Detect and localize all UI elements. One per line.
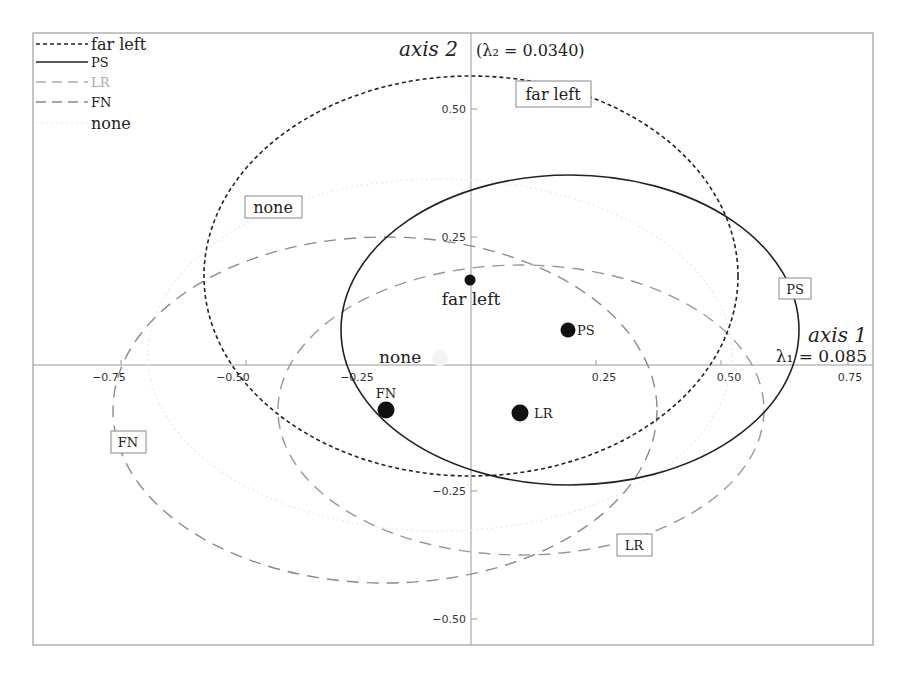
y-ticks — [471, 109, 477, 619]
x-tick-label: 0.75 — [838, 371, 863, 384]
point-ps — [561, 323, 576, 338]
ellipse-label-lr: LR — [617, 534, 652, 556]
ellipse-label-fn: FN — [111, 431, 146, 453]
ellipse-label-none: none — [245, 196, 302, 218]
axis1-title: axis 1 — [808, 323, 867, 347]
axis2-title: axis 2 — [399, 37, 458, 61]
legend-label-lr: LR — [91, 75, 111, 90]
point-lr — [512, 405, 529, 422]
svg-text:LR: LR — [625, 538, 645, 553]
svg-text:far left: far left — [525, 85, 581, 104]
point-label-none: none — [379, 347, 421, 367]
x-tick-label: −0.50 — [216, 371, 250, 384]
correspondence-plot: −0.75 −0.50 −0.25 0.25 0.50 0.75 0.50 0.… — [0, 0, 898, 674]
legend-label-far-left: far left — [91, 35, 147, 54]
x-tick-label: 0.25 — [592, 371, 617, 384]
axis1-eigenvalue: λ₁ = 0.085 — [776, 346, 867, 366]
point-label-far-left: far left — [442, 289, 501, 309]
point-label-lr: LR — [534, 406, 554, 421]
point-far-left — [465, 275, 476, 286]
point-none — [432, 350, 448, 366]
x-tick-labels: −0.75 −0.50 −0.25 0.25 0.50 0.75 — [92, 371, 862, 384]
point-label-fn: FN — [376, 386, 396, 401]
ellipse-label-ps: PS — [779, 278, 811, 299]
x-tick-label: −0.25 — [340, 371, 374, 384]
y-tick-label: −0.50 — [432, 613, 466, 626]
y-tick-label: −0.25 — [432, 485, 466, 498]
legend: far left PS LR FN none — [36, 35, 147, 133]
legend-label-ps: PS — [91, 55, 109, 70]
svg-text:FN: FN — [118, 435, 138, 450]
svg-text:none: none — [253, 198, 293, 217]
svg-text:PS: PS — [786, 282, 804, 297]
legend-label-none: none — [91, 114, 131, 133]
x-tick-label: 0.50 — [717, 371, 742, 384]
legend-label-fn: FN — [91, 95, 111, 110]
ellipse-label-far-left: far left — [516, 81, 591, 107]
axis2-eigenvalue: (λ₂ = 0.0340) — [476, 41, 585, 60]
point-fn — [378, 402, 395, 419]
y-tick-label: 0.50 — [442, 103, 467, 116]
point-label-ps: PS — [577, 323, 595, 338]
x-tick-label: −0.75 — [92, 371, 126, 384]
plot-frame — [33, 33, 873, 645]
